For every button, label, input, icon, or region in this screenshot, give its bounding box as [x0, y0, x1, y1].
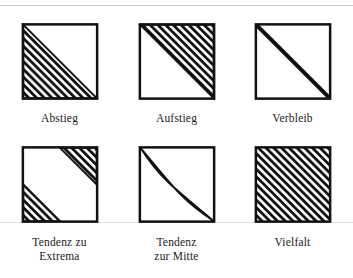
- symbol-cell-verbleib: Verbleib: [236, 22, 349, 126]
- aufstieg-figure-icon: [138, 22, 216, 101]
- symbol-label-aufstieg: Aufstieg: [120, 112, 233, 126]
- symbol-cell-tendenz-zur-mitte: Tendenz zur Mitte: [120, 145, 233, 263]
- symbol-label-vielfalt: Vielfalt: [236, 236, 349, 250]
- symbol-cell-abstieg: Abstieg: [3, 22, 116, 126]
- tendenz-zur-mitte-figure-icon: [138, 145, 216, 224]
- abstieg-figure-icon: [21, 22, 99, 101]
- symbol-label-verbleib: Verbleib: [236, 112, 349, 126]
- vielfalt-figure-icon: [254, 145, 332, 224]
- symbol-label-tendenz-zur-mitte: Tendenz zur Mitte: [120, 236, 233, 263]
- symbol-grid: Abstieg Aufstieg Verbleib: [0, 0, 353, 278]
- symbol-cell-tendenz-zu-extrema: Tendenz zu Extrema: [3, 145, 116, 263]
- tendenz-zu-extrema-figure-icon: [21, 145, 99, 224]
- symbol-cell-aufstieg: Aufstieg: [120, 22, 233, 126]
- symbol-cell-vielfalt: Vielfalt: [236, 145, 349, 250]
- symbol-label-tendenz-zu-extrema: Tendenz zu Extrema: [3, 236, 116, 263]
- verbleib-figure-icon: [254, 22, 332, 101]
- symbol-label-abstieg: Abstieg: [3, 112, 116, 126]
